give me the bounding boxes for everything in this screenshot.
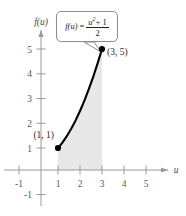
formula-equals: = <box>80 21 85 31</box>
x-tick-label-4: 4 <box>122 179 127 189</box>
y-axis-label: f(u) <box>34 17 48 28</box>
y-tick-label-1: 1 <box>27 144 32 154</box>
function-graph-figure: -1 1 2 3 4 5 5 4 3 2 1 -1 f(u) u (1, 1) … <box>0 0 186 216</box>
formula-numerator: u2+ 1 <box>86 16 108 27</box>
y-tick-label-4: 4 <box>27 69 32 79</box>
point-1-1-dot <box>55 145 61 151</box>
point-1-1-label: (1, 1) <box>33 130 54 141</box>
formula-numerator-rest: + 1 <box>96 16 107 26</box>
x-tick-label-3: 3 <box>100 179 105 189</box>
formula-fraction: u2+ 1 2 <box>86 16 108 38</box>
point-3-5-dot <box>99 46 105 52</box>
x-tick-label-1: 1 <box>56 179 61 189</box>
x-tick-label-2: 2 <box>78 179 83 189</box>
point-3-5-label: (3, 5) <box>107 47 128 58</box>
formula-lhs: f(u) <box>65 21 77 31</box>
formula-denominator: 2 <box>93 28 101 38</box>
x-tick-label--1: -1 <box>15 179 23 189</box>
y-tick-label--1: -1 <box>24 190 32 200</box>
x-axis-arrow <box>161 167 168 172</box>
formula-expression: f(u) = u2+ 1 2 <box>65 16 109 38</box>
callout-tail <box>84 42 101 52</box>
y-tick-label-5: 5 <box>27 45 32 55</box>
y-tick-label-2: 2 <box>27 119 32 129</box>
x-axis-label: u <box>174 165 179 175</box>
y-axis-arrow <box>38 30 43 37</box>
y-tick-label-3: 3 <box>27 94 32 104</box>
x-tick-label-5: 5 <box>144 179 149 189</box>
function-formula-callout: f(u) = u2+ 1 2 <box>56 11 118 42</box>
